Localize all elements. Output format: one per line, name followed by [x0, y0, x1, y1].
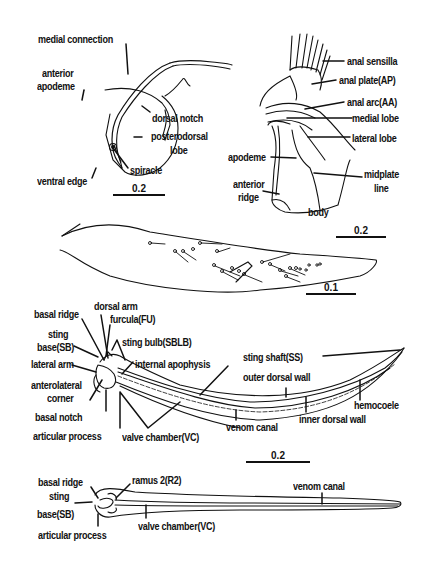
scale-bar-anal-plate: 0.2	[336, 225, 386, 238]
label-valve-chamber: valve chamber(VC)	[122, 432, 199, 443]
label-basal-ridge-dorsal: basal ridge	[38, 477, 83, 488]
label-sting-base-dorsal-line2: base(SB)	[37, 509, 74, 520]
label-furcula: furcula(FU)	[110, 314, 155, 325]
label-body: body	[308, 207, 329, 218]
label-dorsal-arm: dorsal arm	[94, 301, 138, 312]
label-lateral-arm: lateral arm	[31, 359, 74, 370]
label-sting-base-line1: sting	[48, 329, 68, 340]
label-hemocoele: hemocoele	[354, 400, 399, 411]
label-sting-base-line2: base(SB)	[37, 342, 74, 353]
label-apodeme: apodeme	[228, 152, 266, 163]
label-sting-base-dorsal-line1: sting	[49, 491, 69, 502]
label-basal-notch: basal notch	[35, 412, 82, 423]
label-internal-apophysis: internal apophysis	[135, 359, 210, 370]
label-posterodorsal-lobe-line1: posterodorsal	[151, 131, 208, 142]
label-basal-ridge: basal ridge	[34, 309, 79, 320]
label-medial-lobe: medial lobe	[352, 113, 399, 124]
label-lateral-lobe: lateral lobe	[352, 133, 397, 144]
scale-bar-sting-lateral: 0.2	[246, 450, 310, 463]
label-sting-shaft: sting shaft(SS)	[243, 352, 303, 363]
label-anterior-ridge-line1: anterior	[233, 179, 265, 190]
label-anal-sensilla: anal sensilla	[347, 56, 397, 67]
label-venom-canal-dorsal: venom canal	[293, 481, 345, 492]
label-anterior-apodeme-line2: apodeme	[37, 81, 75, 92]
label-ventral-edge: ventral edge	[37, 176, 87, 187]
label-articular-process-dorsal: articular process	[38, 530, 106, 541]
anatomy-figure: medial connection anterior apodeme dorsa…	[0, 0, 428, 566]
label-anterolateral-corner-line1: anterolateral	[31, 380, 82, 391]
label-articular-process: articular process	[33, 431, 101, 442]
label-midplate-line-line2: line	[374, 183, 389, 194]
label-posterodorsal-lobe-line2: lobe	[170, 145, 188, 156]
label-anterolateral-corner-line2: corner	[47, 393, 74, 404]
label-anal-plate: anal plate(AP)	[339, 75, 396, 86]
spiracle-plate-drawing	[82, 44, 232, 178]
sting-dorsal-drawing	[75, 484, 401, 526]
label-anterior-ridge-line2: ridge	[238, 192, 259, 203]
label-spiracle: spiracle	[130, 165, 162, 176]
sting-lateral-drawing	[72, 315, 404, 428]
label-anal-arc: anal arc(AA)	[347, 97, 397, 108]
label-outer-dorsal-wall: outer dorsal wall	[243, 372, 310, 383]
label-inner-dorsal-wall: inner dorsal wall	[299, 414, 366, 425]
scale-bar-gonostylus: 0.1	[306, 282, 356, 295]
label-dorsal-notch: dorsal notch	[152, 113, 203, 124]
label-midplate-line-line1: midplate	[364, 169, 399, 180]
label-sting-bulb: sting bulb(SBLB)	[122, 337, 192, 348]
label-ramus-2: ramus 2(R2)	[132, 475, 181, 486]
label-anterior-apodeme-line1: anterior	[42, 68, 74, 79]
scale-bar-spiracle-plate: 0.2	[113, 183, 165, 196]
label-medial-connection: medial connection	[38, 34, 113, 45]
label-valve-chamber-dorsal: valve chamber(VC)	[138, 521, 215, 532]
label-venom-canal: venom canal	[226, 422, 278, 433]
